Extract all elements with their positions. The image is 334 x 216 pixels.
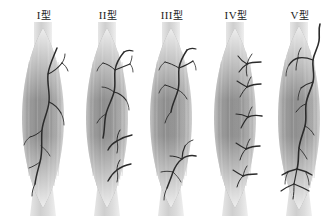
panel-label-type-5: V型 bbox=[268, 9, 332, 22]
muscle-illustration-type-1 bbox=[12, 22, 76, 216]
panel-label-type-1: I型 bbox=[12, 9, 76, 22]
panel-type-3: III型 bbox=[140, 0, 204, 216]
muscle-illustration-type-5 bbox=[268, 22, 332, 216]
muscle-illustration-type-4 bbox=[204, 22, 268, 216]
panel-suffix-type-4: 型 bbox=[237, 10, 247, 21]
panel-label-type-2: II型 bbox=[76, 9, 140, 22]
panel-numeral-type-4: IV bbox=[225, 9, 237, 21]
panel-type-5: V型 bbox=[268, 0, 332, 216]
panel-suffix-type-5: 型 bbox=[299, 10, 309, 21]
panel-type-1: I型 bbox=[12, 0, 76, 216]
panel-type-2: II型 bbox=[76, 0, 140, 216]
panel-type-4: IV型 bbox=[204, 0, 268, 216]
panel-label-type-3: III型 bbox=[140, 9, 204, 22]
muscle-innervation-figure: I型 bbox=[0, 0, 334, 216]
muscle-illustration-type-2 bbox=[76, 22, 140, 216]
panel-numeral-type-3: III bbox=[161, 9, 173, 21]
panel-suffix-type-3: 型 bbox=[173, 10, 183, 21]
panel-label-type-4: IV型 bbox=[204, 9, 268, 22]
panel-suffix-type-2: 型 bbox=[107, 10, 117, 21]
panel-suffix-type-1: 型 bbox=[41, 10, 51, 21]
muscle-illustration-type-3 bbox=[140, 22, 204, 216]
panel-numeral-type-5: V bbox=[291, 9, 299, 21]
panel-numeral-type-2: II bbox=[99, 9, 107, 21]
